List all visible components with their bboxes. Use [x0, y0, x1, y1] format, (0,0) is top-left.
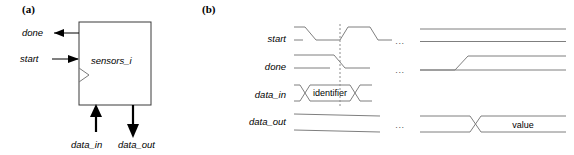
ellipsis-start-row: ... [395, 36, 404, 46]
figure-root: (a) sensors_i done start data_in data_ou… [0, 0, 574, 155]
done-arrowhead-icon [54, 29, 64, 37]
waveform-done [294, 55, 566, 70]
data-in-arrowhead-icon [90, 104, 102, 117]
panel-b-timing-diagram: (b) start done data_in data_out [202, 3, 566, 132]
data-out-bus-value: value [512, 120, 534, 130]
data-in-bus-value: identifier [313, 88, 347, 98]
done-port-label: done [22, 27, 43, 38]
data-out-arrowhead-icon [127, 124, 139, 138]
waveform-start [294, 27, 566, 42]
waveform-data-out: value [294, 114, 566, 132]
data-in-port-label: data_in [71, 139, 102, 150]
waveform-data-in: identifier [294, 85, 372, 101]
timing-label-data-out: data_out [249, 116, 286, 127]
sensors-block-label: sensors_i [91, 55, 133, 66]
ellipsis-data-out-row: ... [395, 120, 404, 130]
start-arrowhead-icon [68, 55, 79, 63]
timing-label-done: done [265, 61, 286, 72]
timing-label-data-in: data_in [255, 89, 286, 100]
start-port-label: start [20, 53, 39, 64]
data-out-port-label: data_out [118, 139, 155, 150]
figure-canvas: (a) sensors_i done start data_in data_ou… [0, 0, 574, 155]
panel-a-block-diagram: (a) sensors_i done start data_in data_ou… [20, 3, 155, 150]
ellipsis-done-row: ... [395, 65, 404, 75]
timing-label-start: start [268, 33, 287, 44]
panel-a-tag: (a) [22, 3, 35, 16]
panel-b-tag: (b) [202, 3, 216, 16]
